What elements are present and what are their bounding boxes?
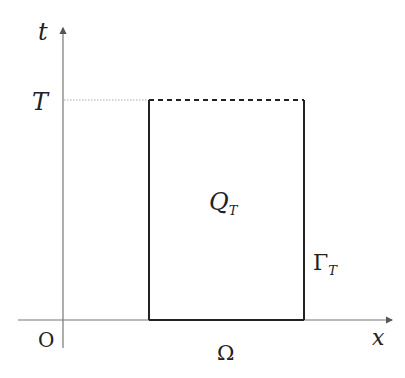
- region-label-main: Q: [209, 188, 229, 216]
- time-marker-label: T: [32, 90, 48, 114]
- base-domain-label: Ω: [217, 343, 234, 364]
- boundary-label-main: Γ: [313, 250, 328, 275]
- t-axis-label: t: [38, 20, 48, 44]
- diagram-svg: [0, 0, 405, 378]
- origin-label: O: [38, 330, 54, 350]
- boundary-label: ΓT: [313, 252, 337, 274]
- diagram-canvas: t T QT ΓT O Ω x: [0, 0, 405, 378]
- region-label-sub: T: [229, 203, 238, 218]
- boundary-label-sub: T: [328, 263, 337, 278]
- region-label: QT: [209, 190, 237, 214]
- x-axis-label: x: [372, 327, 384, 349]
